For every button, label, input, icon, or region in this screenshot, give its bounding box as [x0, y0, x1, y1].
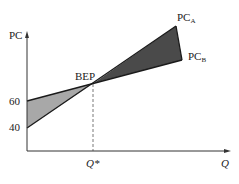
x-axis-label: Q: [221, 158, 229, 169]
pc-b-label-main: PC: [188, 50, 201, 62]
x-axis-arrow-icon: [224, 149, 231, 153]
tick-60: 60: [9, 96, 20, 107]
pc-a-label-sub: A: [190, 17, 195, 25]
pc-a-label-main: PC: [177, 11, 190, 23]
region-after-bep: [94, 26, 182, 83]
pc-b-line: [27, 60, 182, 101]
tick-40: 40: [9, 122, 20, 133]
pc-a-line: [27, 26, 176, 128]
bep-label: BEP: [75, 71, 95, 82]
y-axis-arrow-icon: [25, 31, 29, 38]
pc-b-label: PCB: [188, 51, 206, 64]
pc-b-label-sub: B: [201, 56, 206, 64]
break-even-chart: [0, 0, 239, 184]
pc-a-label: PCA: [177, 12, 196, 25]
q-star-label: Q*: [86, 158, 99, 169]
y-axis-label: PC: [9, 30, 22, 41]
